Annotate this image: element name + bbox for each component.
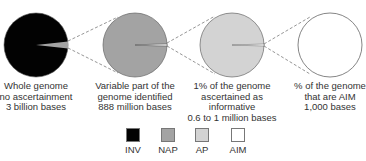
caption-ascertained: 1% of the genome ascertained as informat…	[182, 81, 282, 123]
caption-line: 1,000 bases	[280, 102, 366, 113]
swatch-inv	[126, 128, 140, 142]
pie-ascertained	[200, 13, 264, 77]
caption-line: Whole genome	[0, 81, 86, 92]
swatch-ap	[195, 128, 209, 142]
caption-variable-part: Variable part of the genome identified 8…	[85, 81, 185, 113]
legend-label: INV	[113, 144, 153, 155]
caption-line: 888 million bases	[85, 102, 185, 113]
legend-item-inv: INV	[113, 128, 153, 155]
swatch-aim	[231, 128, 245, 142]
legend-label: AP	[182, 144, 222, 155]
caption-line: % of the genome	[280, 81, 366, 92]
pie-whole-genome	[4, 13, 68, 77]
caption-line: Variable part of the	[85, 81, 185, 92]
legend-label: AIM	[218, 144, 258, 155]
legend-item-aim: AIM	[218, 128, 258, 155]
legend: INV NAP AP AIM	[0, 128, 366, 161]
caption-whole-genome: Whole genome no ascertainment 3 billion …	[0, 81, 86, 113]
swatch-nap	[161, 128, 175, 142]
caption-line: 3 billion bases	[0, 102, 86, 113]
caption-aim: % of the genome that are AIM 1,000 bases	[280, 81, 366, 113]
pie-variable-part	[103, 13, 167, 77]
legend-item-ap: AP	[182, 128, 222, 155]
caption-line: 0.6 to 1 million bases	[182, 113, 282, 124]
pie-aim	[298, 13, 362, 77]
caption-line: 1% of the genome	[182, 81, 282, 92]
caption-line: informative	[182, 102, 282, 113]
